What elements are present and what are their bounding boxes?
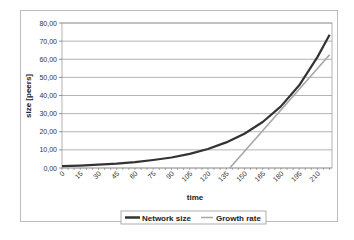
series-line-growth-rate xyxy=(230,55,330,168)
y-tick-label: 20,00 xyxy=(39,128,57,135)
series-layer xyxy=(62,35,330,168)
y-tick-label: 60,00 xyxy=(39,56,57,63)
x-tick-label: 150 xyxy=(235,170,248,183)
y-axis-ticks: 0,0010,0020,0030,0040,0050,0060,0070,008… xyxy=(39,20,62,172)
x-tick-label: 90 xyxy=(165,170,176,181)
legend-label-network-size: Network size xyxy=(142,214,191,223)
x-tick-label: 135 xyxy=(217,170,230,183)
x-tick-label: 180 xyxy=(271,170,284,183)
x-tick-label: 15 xyxy=(73,170,84,181)
x-tick-label: 195 xyxy=(290,170,303,183)
y-tick-label: 30,00 xyxy=(39,110,57,117)
y-tick-label: 10,00 xyxy=(39,146,57,153)
x-tick-label: 0 xyxy=(58,170,66,178)
y-tick-label: 0,00 xyxy=(43,165,57,172)
legend-label-growth-rate: Growth rate xyxy=(216,214,261,223)
x-tick-label: 105 xyxy=(180,170,193,183)
x-tick-label: 210 xyxy=(308,170,321,183)
x-tick-label: 120 xyxy=(198,170,211,183)
x-tick-label: 165 xyxy=(253,170,266,183)
y-axis-title: size [peers] xyxy=(24,74,33,118)
x-tick-label: 45 xyxy=(110,170,121,181)
y-tick-label: 40,00 xyxy=(39,92,57,99)
chart: 0,0010,0020,0030,0040,0050,0060,0070,008… xyxy=(0,0,354,240)
x-axis-title: time xyxy=(187,193,204,202)
x-axis-ticks: 0153045607590105120135150165180195210 xyxy=(58,168,330,183)
x-tick-label: 30 xyxy=(92,170,103,181)
y-tick-label: 70,00 xyxy=(39,38,57,45)
y-tick-label: 50,00 xyxy=(39,74,57,81)
x-tick-label: 60 xyxy=(128,170,139,181)
y-tick-label: 80,00 xyxy=(39,20,57,27)
x-tick-label: 75 xyxy=(146,170,157,181)
legend: Network size Growth rate xyxy=(121,211,266,224)
